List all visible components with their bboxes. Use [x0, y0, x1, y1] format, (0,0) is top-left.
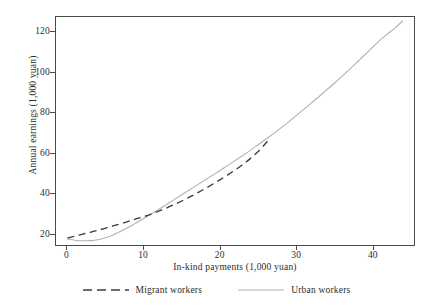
solid-line-swatch: [238, 285, 284, 295]
x-tick-label: 20: [200, 250, 240, 261]
legend-entry-urban-workers[interactable]: Urban workers: [238, 285, 350, 295]
y-tick-label: 20: [6, 229, 50, 239]
x-axis-title: In-kind payments (1,000 yuan): [55, 262, 415, 272]
legend-label-urban-workers: Urban workers: [291, 285, 350, 295]
series-line-urban-workers: [67, 21, 402, 241]
y-axis-title: Annual earnings (1,000 yuan): [28, 20, 38, 210]
chart-legend: Migrant workers Urban workers: [0, 281, 433, 299]
chart-page: 20406080100120 010203040 Annual earnings…: [0, 0, 433, 306]
legend-entry-migrant-workers[interactable]: Migrant workers: [83, 285, 203, 295]
x-tick-label: 10: [123, 250, 163, 261]
series-line-migrant-workers: [67, 139, 269, 238]
x-tick-label: 30: [276, 250, 316, 261]
dashed-line-swatch: [83, 285, 129, 295]
chart-svg: [56, 17, 414, 245]
x-tick-label: 40: [353, 250, 393, 261]
plot-area: [55, 16, 415, 246]
x-tick-label: 0: [46, 250, 86, 261]
legend-label-migrant-workers: Migrant workers: [136, 285, 203, 295]
